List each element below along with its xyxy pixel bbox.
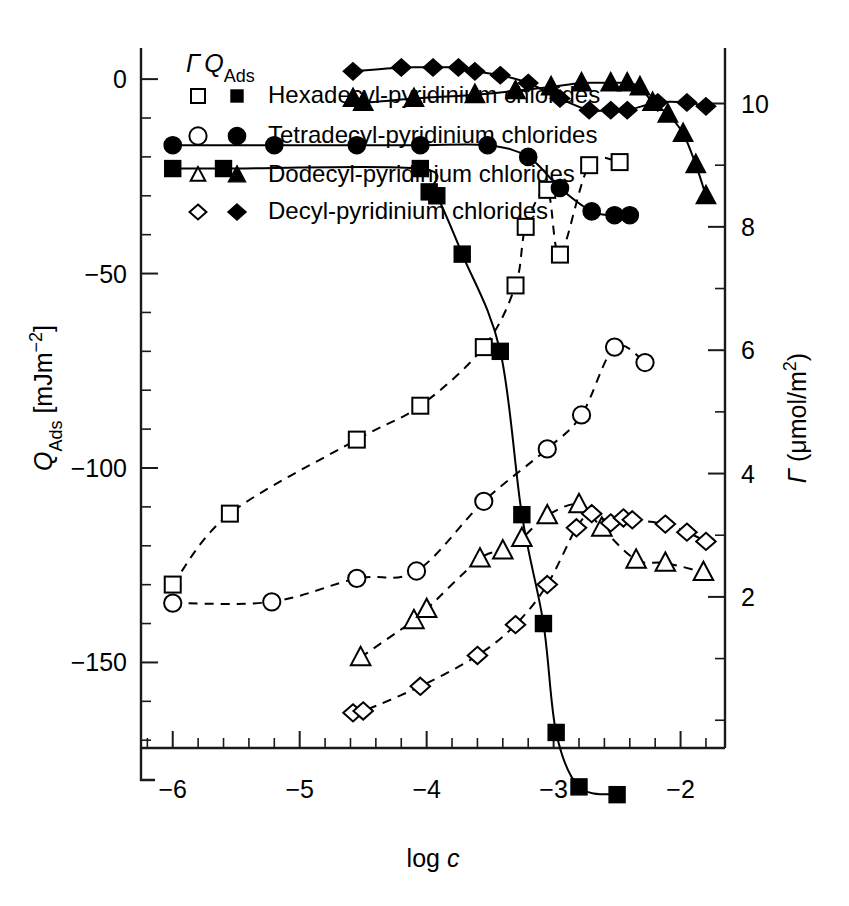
left-axis-title: QAds [mJm−2]	[26, 325, 66, 471]
gamma-data-point	[348, 570, 365, 587]
x-axis-tick-label: −5	[285, 775, 314, 803]
legend-open-marker	[190, 205, 207, 220]
gamma-data-point	[508, 277, 524, 293]
gamma-data-point	[263, 593, 280, 610]
gamma-data-point	[612, 154, 628, 170]
q-data-point	[677, 94, 697, 111]
gamma-data-point	[636, 354, 653, 371]
gamma-data-point	[512, 528, 532, 546]
left-axis-tick-label: −150	[71, 648, 127, 676]
q-data-point	[601, 72, 621, 90]
q-curve	[173, 167, 617, 795]
legend-label: Dodecyl-pyridinium chlorides	[268, 160, 575, 187]
gamma-data-point	[470, 548, 490, 566]
gamma-data-point	[408, 562, 425, 579]
gamma-data-point	[349, 432, 365, 448]
right-axis-tick-label: 4	[741, 460, 755, 488]
q-data-point	[535, 616, 551, 632]
q-data-point	[609, 787, 625, 803]
right-axis-tick-label: 8	[741, 213, 755, 241]
gamma-data-point	[538, 576, 558, 593]
adsorption-chart: −150−100−500246810−6−5−4−3−2log cQAds [m…	[0, 0, 849, 906]
right-axis-title: Γ (μmol/m2)	[780, 353, 811, 483]
left-axis-tick-label: −100	[71, 454, 127, 482]
legend-filled-marker	[228, 204, 246, 220]
gamma-data-point	[164, 594, 181, 611]
legend-filled-marker	[228, 127, 245, 144]
q-data-point	[514, 507, 530, 523]
origin-corner-mark	[141, 748, 155, 780]
q-data-point	[696, 185, 716, 203]
legend-label: Tetradecyl-pyridinium chlorides	[268, 121, 597, 148]
gamma-data-point	[694, 562, 714, 580]
gamma-data-point	[475, 493, 492, 510]
q-data-point	[617, 102, 637, 119]
q-data-point	[548, 724, 564, 740]
q-data-point	[165, 161, 181, 177]
x-axis-tick-label: −4	[412, 775, 441, 803]
gamma-data-point	[573, 406, 590, 423]
gamma-data-point	[351, 647, 371, 665]
q-data-point	[686, 154, 706, 172]
q-data-point	[621, 207, 638, 224]
legend-filled-marker	[231, 90, 243, 102]
q-data-point	[343, 63, 363, 80]
q-data-point	[673, 123, 693, 141]
gamma-data-point	[476, 339, 492, 355]
gamma-data-point	[539, 440, 556, 457]
left-axis-tick-label: 0	[113, 65, 127, 93]
series-1	[165, 154, 628, 803]
right-axis-tick-label: 2	[741, 583, 755, 611]
gamma-curve	[361, 504, 704, 657]
legend-item-1	[191, 89, 243, 103]
figure-container: −150−100−500246810−6−5−4−3−2log cQAds [m…	[0, 0, 849, 906]
q-data-point	[465, 63, 485, 80]
x-axis-title: log c	[407, 844, 460, 872]
legend-label: Hexadecyl-pyridinium chlorides	[268, 81, 600, 108]
gamma-data-point	[165, 577, 181, 593]
legend-open-marker	[191, 89, 205, 103]
q-data-point	[696, 98, 716, 115]
gamma-data-point	[493, 540, 513, 558]
gamma-data-point	[538, 505, 558, 523]
legend-open-marker	[189, 127, 206, 144]
gamma-data-point	[411, 678, 431, 695]
q-data-point	[216, 161, 232, 177]
q-data-point	[583, 203, 600, 220]
gamma-data-point	[567, 519, 587, 536]
gamma-data-point	[222, 506, 238, 522]
gamma-data-point	[606, 338, 623, 355]
gamma-data-point	[696, 533, 716, 550]
legend-header: ΓQAds	[186, 49, 255, 86]
legend-item-2	[189, 127, 245, 144]
q-data-point	[423, 59, 443, 76]
gamma-data-point	[626, 549, 646, 567]
x-axis-tick-label: −2	[666, 775, 695, 803]
q-data-point	[392, 59, 412, 76]
gamma-data-point	[552, 247, 568, 263]
right-axis-tick-label: 6	[741, 336, 755, 364]
q-data-point	[164, 137, 181, 154]
gamma-data-point	[581, 157, 597, 173]
right-axis-tick-label: 10	[741, 90, 769, 118]
left-axis-tick-label: −50	[85, 260, 127, 288]
q-data-point	[454, 246, 470, 262]
q-data-point	[571, 779, 587, 795]
legend-label: Decyl-pyridinium chlorides	[268, 197, 548, 224]
q-data-point	[492, 343, 508, 359]
x-axis-tick-label: −3	[539, 775, 568, 803]
q-data-point	[449, 59, 469, 76]
gamma-data-point	[468, 647, 488, 664]
gamma-data-point	[677, 524, 697, 541]
gamma-data-point	[656, 515, 676, 532]
gamma-data-point	[417, 599, 437, 617]
gamma-data-point	[412, 398, 428, 414]
x-axis-tick-label: −6	[158, 775, 187, 803]
